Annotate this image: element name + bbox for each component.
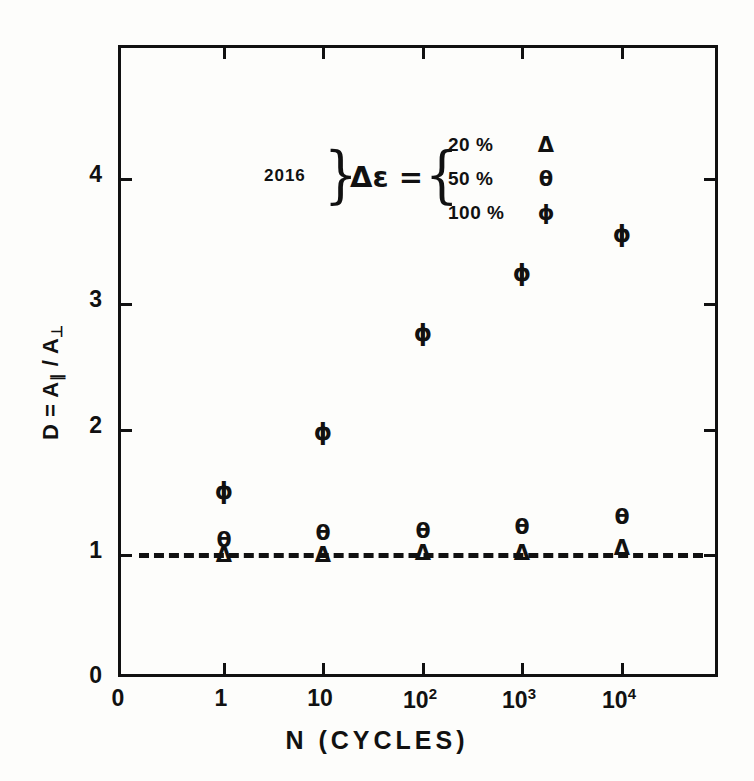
legend-row-2: 100 %ϕ	[448, 196, 568, 230]
data-point-theta: θ	[216, 529, 231, 551]
x-tick-mark-bottom-2	[322, 663, 325, 674]
y-tick-label-3: 3	[62, 286, 102, 313]
legend-rows: 20 %Δ50 %θ100 %ϕ	[448, 128, 568, 230]
data-point-theta: θ	[415, 520, 430, 542]
x-tick-label-1: 1	[186, 685, 256, 712]
x-tick-mark-top-4	[521, 48, 524, 59]
data-point-phi: ϕ	[613, 223, 631, 246]
data-point-theta: θ	[315, 522, 330, 544]
x-tick-label-4: 103	[484, 685, 554, 714]
data-point-phi: ϕ	[314, 421, 332, 444]
legend-row-1: 50 %θ	[448, 162, 568, 196]
x-tick-label-2: 10	[285, 685, 355, 712]
legend-row-0: 20 %Δ	[448, 128, 568, 162]
y-axis-title-sub-parallel: ∥	[48, 373, 65, 382]
data-point-phi: ϕ	[414, 322, 432, 345]
y-tick-mark-left-2	[121, 429, 132, 432]
data-point-phi: ϕ	[513, 261, 531, 284]
x-tick-mark-bottom-3	[422, 663, 425, 674]
y-axis-title-head: D = A	[38, 381, 63, 440]
legend-row-value-0: 20 %	[448, 134, 524, 156]
legend-equation-label: Δε =	[350, 160, 423, 194]
data-point-phi: ϕ	[215, 479, 233, 502]
data-point-theta: θ	[614, 506, 629, 528]
y-tick-mark-right-4	[704, 178, 715, 181]
y-tick-mark-left-4	[121, 178, 132, 181]
legend-row-value-2: 100 %	[448, 202, 524, 224]
x-tick-label-0: 0	[83, 685, 153, 712]
y-tick-mark-left-3	[121, 303, 132, 306]
y-tick-mark-right-2	[704, 429, 715, 432]
y-tick-label-2: 2	[62, 412, 102, 439]
data-point-triangle-open: Δ	[415, 543, 431, 564]
data-point-triangle-open: Δ	[614, 538, 630, 559]
x-tick-mark-bottom-4	[521, 663, 524, 674]
plot-frame: ΔΔΔΔΔθθθθθϕϕϕϕϕ 2016 } Δε = { 20 %Δ50 %θ…	[118, 45, 718, 677]
legend-sample-label: 2016	[264, 166, 306, 186]
x-tick-mark-bottom-5	[621, 663, 624, 674]
figure-canvas: 01234 D = A∥ / A⊥ N (CYCLES) 01101021031…	[0, 0, 754, 781]
x-tick-mark-top-1	[223, 48, 226, 59]
legend-row-value-1: 50 %	[448, 168, 524, 190]
data-point-triangle-open: Δ	[514, 543, 530, 564]
y-axis-title-mid: / A	[38, 338, 63, 373]
y-axis-title: D = A∥ / A⊥	[38, 324, 66, 440]
y-tick-label-4: 4	[62, 161, 102, 188]
x-tick-label-3: 102	[385, 685, 455, 714]
x-tick-mark-top-3	[422, 48, 425, 59]
y-tick-label-1: 1	[62, 537, 102, 564]
y-tick-mark-right-3	[704, 303, 715, 306]
y-axis-title-sub-perp: ⊥	[48, 324, 65, 338]
legend-row-symbol-1: θ	[524, 167, 568, 191]
x-tick-label-5: 104	[584, 685, 654, 714]
legend: 2016 } Δε = { 20 %Δ50 %θ100 %ϕ	[264, 122, 594, 232]
x-axis-title: N (CYCLES)	[0, 726, 754, 755]
y-tick-mark-left-1	[121, 554, 132, 557]
data-point-triangle-open: Δ	[315, 544, 331, 565]
legend-row-symbol-0: Δ	[524, 133, 568, 157]
x-tick-mark-top-2	[322, 48, 325, 59]
x-tick-mark-top-5	[621, 48, 624, 59]
data-point-theta: θ	[514, 516, 529, 538]
legend-row-symbol-2: ϕ	[524, 201, 568, 225]
y-tick-mark-right-1	[704, 554, 715, 557]
x-tick-mark-bottom-1	[223, 663, 226, 674]
